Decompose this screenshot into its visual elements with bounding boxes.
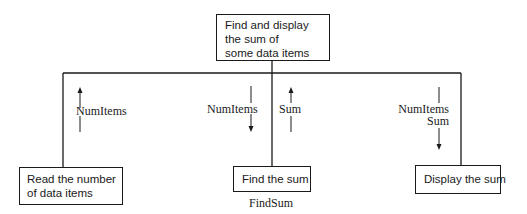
flow-label-display-sum: Sum (395, 115, 449, 128)
module-read-number: Read the number of data items (19, 167, 123, 205)
root-module-text-2: the sum of (225, 32, 321, 46)
module-display-sum: Display the sum (415, 165, 501, 194)
module-find-sum: Find the sum (233, 166, 311, 192)
module-findsum-caption: FindSum (249, 197, 293, 210)
module-findsum-text: Find the sum (242, 172, 302, 186)
root-module-text-3: some data items (225, 46, 321, 60)
flow-label-read-numitems: NumItems (76, 105, 127, 118)
structure-chart: Find and display the sum of some data it… (0, 0, 527, 214)
module-read-text-2: of data items (27, 186, 115, 200)
flow-label-findsum-sum: Sum (279, 103, 301, 116)
module-display-text: Display the sum (424, 172, 492, 186)
root-module-text-1: Find and display (225, 18, 321, 32)
module-read-text-1: Read the number (27, 172, 115, 186)
root-module: Find and display the sum of some data it… (216, 14, 330, 61)
flow-label-findsum-numitems: NumItems (207, 103, 258, 116)
